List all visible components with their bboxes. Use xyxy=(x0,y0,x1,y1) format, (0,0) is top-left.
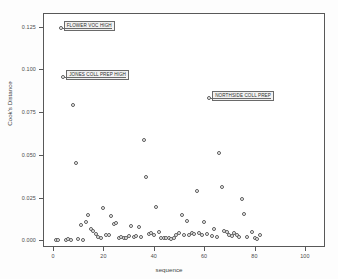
y-tick-mark xyxy=(39,198,43,199)
y-tick-label: 0.050 xyxy=(6,152,36,158)
y-tick-mark xyxy=(39,240,43,241)
y-tick-mark xyxy=(39,69,43,70)
data-point xyxy=(144,175,148,179)
x-tick-label: 80 xyxy=(240,253,270,259)
x-tick-mark xyxy=(305,247,306,251)
data-point xyxy=(202,220,206,224)
point-annotation-label: NORTHSIDE COLL PREP xyxy=(212,91,274,101)
data-point xyxy=(79,223,83,227)
x-tick-mark xyxy=(204,247,205,251)
data-point xyxy=(56,238,60,242)
point-annotation-label: JONES COLL PREP HIGH xyxy=(66,70,129,80)
x-tick-label: 40 xyxy=(139,253,169,259)
data-point xyxy=(69,238,73,242)
data-point xyxy=(210,234,214,238)
plot-area xyxy=(43,13,325,247)
x-tick-label: 0 xyxy=(38,253,68,259)
data-point xyxy=(215,235,219,239)
data-point xyxy=(240,197,244,201)
data-point xyxy=(71,103,75,107)
data-point xyxy=(258,233,262,237)
data-point xyxy=(180,213,184,217)
data-point xyxy=(99,236,103,240)
data-point xyxy=(107,233,111,237)
data-point xyxy=(200,233,204,237)
x-tick-mark xyxy=(53,247,54,251)
data-point xyxy=(157,230,161,234)
data-point xyxy=(127,234,131,238)
x-tick-mark xyxy=(154,247,155,251)
x-tick-mark xyxy=(103,247,104,251)
data-point xyxy=(220,185,224,189)
data-point xyxy=(192,232,196,236)
data-point xyxy=(255,237,259,241)
x-tick-label: 100 xyxy=(290,253,320,259)
data-point xyxy=(129,224,133,228)
data-point xyxy=(245,235,249,239)
data-point xyxy=(152,233,156,237)
data-point xyxy=(182,233,186,237)
data-point xyxy=(205,232,209,236)
data-point xyxy=(109,214,113,218)
x-axis-title: sequence xyxy=(0,266,338,273)
data-point xyxy=(177,231,181,235)
x-tick-label: 20 xyxy=(88,253,118,259)
y-tick-label: 0.125 xyxy=(6,24,36,30)
data-point xyxy=(195,189,199,193)
y-tick-mark xyxy=(39,155,43,156)
x-tick-mark xyxy=(255,247,256,251)
annotation-leader-line xyxy=(62,28,112,29)
data-point xyxy=(137,225,141,229)
y-tick-mark xyxy=(39,27,43,28)
data-point xyxy=(74,161,78,165)
data-point xyxy=(185,219,189,223)
y-tick-label: 0.000 xyxy=(6,237,36,243)
y-tick-mark xyxy=(39,112,43,113)
annotation-leader-line xyxy=(64,77,126,78)
annotation-leader-line xyxy=(210,98,271,99)
x-tick-label: 60 xyxy=(189,253,219,259)
point-annotation-label: FLOWER VOC HIGH xyxy=(64,21,115,31)
y-axis-title: Cook's Distance xyxy=(6,59,13,149)
y-tick-label: 0.025 xyxy=(6,195,36,201)
cooks-distance-scatter-plot: 0.0000.0250.0500.0750.1000.125 020406080… xyxy=(0,0,338,279)
